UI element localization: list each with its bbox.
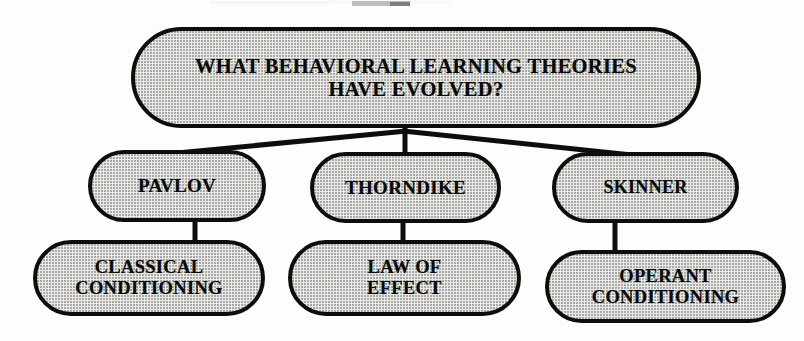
node-skinner[interactable]: SKINNER [552,152,739,223]
node-law-text: LAW OFEFFECT [361,257,448,298]
node-operant-text: OPERANTCONDITIONING [586,266,746,307]
node-law-of-effect[interactable]: LAW OFEFFECT [288,240,521,316]
node-operant-conditioning[interactable]: OPERANTCONDITIONING [545,250,786,323]
diagram-canvas: WHAT BEHAVIORAL LEARNING THEORIESHAVE EV… [0,0,804,341]
node-thorndike[interactable]: THORNDIKE [310,152,501,223]
node-classical-text: CLASSICALCONDITIONING [69,257,229,298]
node-pavlov-label: PAVLOV [132,175,222,196]
node-pavlov[interactable]: PAVLOV [88,150,266,222]
node-root-question[interactable]: WHAT BEHAVIORAL LEARNING THEORIESHAVE EV… [131,27,701,128]
node-root-text: WHAT BEHAVIORAL LEARNING THEORIESHAVE EV… [189,55,643,101]
node-thorndike-label: THORNDIKE [339,177,472,198]
node-classical-conditioning[interactable]: CLASSICALCONDITIONING [33,240,265,316]
node-skinner-label: SKINNER [597,177,693,197]
